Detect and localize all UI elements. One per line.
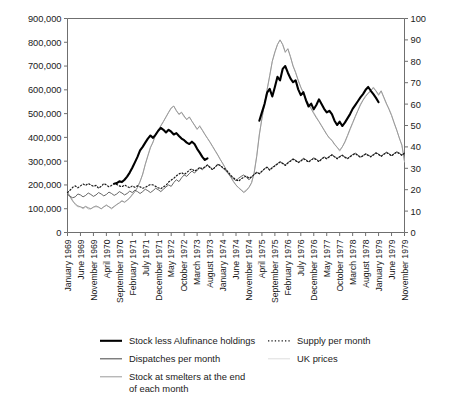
y-axis-right: 0102030405060708090100 [405,14,427,238]
series-stock-less-alufinance-holdings [114,128,207,184]
legend-label-continuation: of each month [129,383,188,394]
x-tick-label: July 1976 [296,239,306,276]
x-tick-label: January 1969 [63,239,73,291]
series-supply-per-month [68,152,405,192]
y2-tick-label: 90 [411,35,421,45]
y2-tick-label: 10 [411,207,421,217]
x-tick-label: December 1976 [309,239,319,300]
x-tick-label: August 1978 [361,239,371,287]
y-tick-label: 200,000 [28,180,62,190]
x-tick-label: March 1973 [192,239,202,285]
legend-label: Supply per month [297,335,370,346]
y2-tick-label: 60 [411,100,421,110]
y-tick-label: 800,000 [28,38,62,48]
x-tick-label: March 1978 [348,239,358,285]
x-tick-label: July 1971 [141,239,151,276]
x-tick-label: February 1976 [283,239,293,295]
x-tick-label: August 1973 [205,239,215,287]
x-tick-label: October 1977 [335,239,345,291]
series-stock-less-alufinance-holdings [259,66,378,126]
y-tick-label: 300,000 [28,157,62,167]
x-tick-label: October 1972 [179,239,189,291]
x-tick-label: April 1975 [257,239,267,278]
x-tick-label: May 1977 [322,239,332,277]
x-tick-label: June 1969 [76,239,86,279]
y2-tick-label: 40 [411,142,421,152]
y2-tick-label: 50 [411,121,421,131]
y2-tick-label: 30 [411,164,421,174]
y2-tick-label: 100 [411,14,427,24]
x-tick-label: November 1974 [244,239,254,300]
x-tick-label: May 1972 [166,239,176,277]
chart-legend: Stock less Alufinance holdingsSupply per… [100,335,370,394]
chart-canvas: 0100,000200,000300,000400,000500,000600,… [0,0,453,401]
x-tick-label: February 1971 [128,239,138,295]
x-tick-label: September 1975 [270,239,280,303]
x-axis: January 1969June 1969November 1969April … [63,233,410,304]
series-uk-prices [68,40,405,209]
y-axis-left: 0100,000200,000300,000400,000500,000600,… [28,14,68,238]
y-tick-label: 500,000 [28,109,62,119]
y-tick-label: 700,000 [28,61,62,71]
legend-label: Dispatches per month [129,353,220,364]
y2-tick-label: 80 [411,57,421,67]
x-tick-label: September 1970 [115,239,125,303]
y2-tick-label: 70 [411,78,421,88]
x-tick-label: April 1970 [102,239,112,278]
legend-label: UK prices [297,353,338,364]
x-tick-label: January 1979 [374,239,384,291]
y-tick-label: 900,000 [28,14,62,24]
x-tick-label: November 1969 [89,239,99,300]
plot-frame [68,19,405,233]
series-layer [68,40,405,209]
y-tick-label: 600,000 [28,85,62,95]
y2-tick-label: 20 [411,185,421,195]
legend-label: Stock at smelters at the end [129,371,245,382]
y2-tick-label: 0 [411,228,416,238]
y-tick-label: 100,000 [28,204,62,214]
legend-label: Stock less Alufinance holdings [129,335,255,346]
chart-figure: 0100,000200,000300,000400,000500,000600,… [0,0,453,401]
x-tick-label: December 1971 [154,239,164,300]
series-dispatches-per-month [68,152,405,198]
x-tick-label: June 1979 [387,239,397,279]
x-tick-label: January 1974 [218,239,228,291]
x-tick-label: November 1979 [400,239,410,300]
y-tick-label: 0 [56,228,61,238]
y-tick-label: 400,000 [28,133,62,143]
x-tick-label: June 1974 [231,239,241,279]
